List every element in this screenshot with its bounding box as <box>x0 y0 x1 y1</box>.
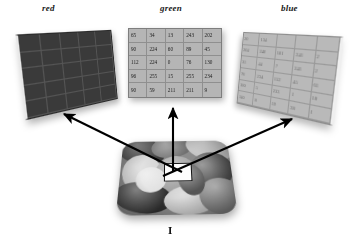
arrow-to-red <box>64 114 182 172</box>
image-caption: I <box>168 224 172 236</box>
figure-canvas: red green blue 6534132432029022460894511… <box>0 0 351 250</box>
arrow-to-blue <box>163 119 292 176</box>
arrow-layer <box>0 0 351 250</box>
